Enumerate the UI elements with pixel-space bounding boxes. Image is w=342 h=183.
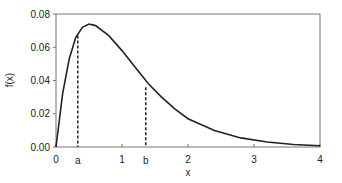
x-axis-label: x <box>186 167 191 178</box>
y-tick-label: 0.06 <box>31 42 51 53</box>
y-axis-label: f(x) <box>4 73 15 87</box>
annotation-label: b <box>143 155 149 166</box>
y-tick-label: 0.00 <box>31 142 51 153</box>
x-tick-label: 3 <box>251 154 257 165</box>
x-tick-label: 4 <box>317 154 323 165</box>
annotation-label: a <box>75 155 81 166</box>
y-tick-label: 0.04 <box>31 75 51 86</box>
annotations: ab <box>75 36 149 166</box>
axis-ticks: 012340.000.020.040.060.08 <box>31 9 324 166</box>
density-curve <box>56 24 320 147</box>
x-tick-label: 2 <box>185 154 191 165</box>
x-tick-label: 1 <box>119 154 125 165</box>
x-tick-label: 0 <box>53 154 59 165</box>
chart: 012340.000.020.040.060.08 ab f(x) x <box>0 0 342 183</box>
plot-frame <box>56 14 320 147</box>
y-tick-label: 0.02 <box>31 108 51 119</box>
y-tick-label: 0.08 <box>31 9 51 20</box>
